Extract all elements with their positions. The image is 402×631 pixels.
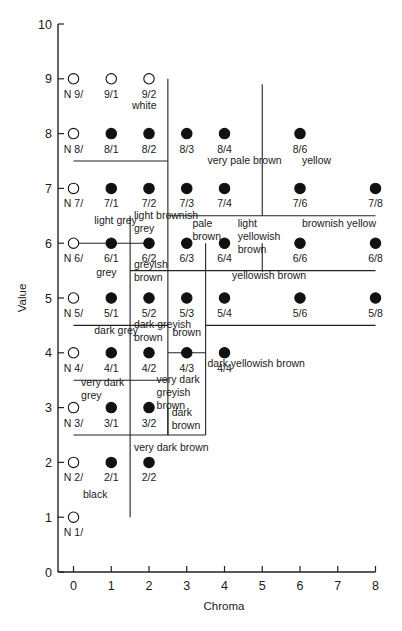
point-label: 6/3 (179, 252, 194, 264)
point-label: 8/6 (293, 143, 308, 155)
data-point: 7/4 (217, 183, 232, 209)
filled-dot-icon (370, 183, 380, 193)
data-point: 5/6 (293, 293, 308, 319)
filled-dot-icon (370, 238, 380, 248)
open-circle-icon (68, 512, 78, 522)
filled-dot-icon (144, 348, 154, 358)
data-point: 4/1 (104, 348, 119, 374)
point-label: 6/8 (368, 252, 383, 264)
data-point: 8/4 (217, 128, 232, 154)
data-point: N 8/ (64, 128, 83, 154)
filled-dot-icon (106, 128, 116, 138)
x-tick-label: 3 (183, 579, 190, 593)
data-point: 9/1 (104, 74, 119, 100)
data-point: 7/1 (104, 183, 119, 209)
region-label: yellow (302, 154, 332, 166)
data-point: 8/6 (293, 128, 308, 154)
data-point: 8/1 (104, 128, 119, 154)
point-label: N 8/ (64, 143, 83, 155)
open-circle-icon (68, 128, 78, 138)
y-tick-label: 4 (45, 346, 52, 360)
point-label: 8/2 (142, 143, 157, 155)
point-label: 5/2 (142, 307, 157, 319)
y-tick-label: 2 (45, 456, 52, 470)
data-point: 6/6 (293, 238, 308, 264)
x-axis-title: Chroma (204, 600, 246, 612)
filled-dot-icon (219, 238, 229, 248)
filled-dot-icon (144, 402, 154, 412)
x-tick-label: 0 (70, 579, 77, 593)
point-label: 5/3 (179, 307, 194, 319)
filled-dot-icon (182, 128, 192, 138)
x-tick-label: 5 (259, 579, 266, 593)
region-label: lightyellowishbrown (238, 217, 281, 255)
x-tick-label: 1 (108, 579, 115, 593)
filled-dot-icon (219, 348, 229, 358)
filled-dot-icon (106, 238, 116, 248)
open-circle-icon (68, 74, 78, 84)
data-point: 8/2 (142, 128, 157, 154)
point-label: 4/1 (104, 362, 119, 374)
open-circle-icon (144, 74, 154, 84)
point-label: 9/2 (142, 88, 157, 100)
point-label: 3/1 (104, 417, 119, 429)
point-label: 8/1 (104, 143, 119, 155)
filled-dot-icon (219, 183, 229, 193)
point-label: 7/3 (179, 197, 194, 209)
filled-dot-icon (182, 348, 192, 358)
data-point: N 7/ (64, 183, 83, 209)
x-tick-label: 7 (334, 579, 341, 593)
point-label: 6/4 (217, 252, 232, 264)
filled-dot-icon (144, 238, 154, 248)
data-points: N 9/9/19/2N 8/8/18/28/38/48/6N 7/7/17/27… (64, 74, 383, 539)
x-tick-label: 8 (372, 579, 379, 593)
filled-dot-icon (106, 402, 116, 412)
region-label: light brownishgrey (134, 209, 198, 234)
data-point: 4/3 (179, 348, 194, 374)
point-label: N 2/ (64, 471, 83, 483)
point-label: 5/4 (217, 307, 232, 319)
data-point: 3/2 (142, 402, 157, 428)
filled-dot-icon (370, 293, 380, 303)
region-label: grey (96, 266, 117, 278)
filled-dot-icon (182, 238, 192, 248)
region-label: black (83, 488, 108, 500)
region-label: light grey (94, 214, 137, 226)
point-label: 5/8 (368, 307, 383, 319)
data-point: 7/6 (293, 183, 308, 209)
point-label: 8/4 (217, 143, 232, 155)
y-tick-label: 6 (45, 237, 52, 251)
point-label: 5/6 (293, 307, 308, 319)
point-label: 4/4 (217, 362, 232, 374)
data-point: 2/1 (104, 457, 119, 483)
y-tick-label: 7 (45, 182, 52, 196)
point-label: 7/8 (368, 197, 383, 209)
data-point: 6/2 (142, 238, 157, 264)
point-label: N 7/ (64, 197, 83, 209)
point-label: N 3/ (64, 417, 83, 429)
filled-dot-icon (144, 128, 154, 138)
data-point: 3/1 (104, 402, 119, 428)
region-label: yellowish brown (232, 269, 306, 281)
region-label: very pale brown (208, 154, 282, 166)
axes: 012345678910012345678 (38, 18, 379, 594)
point-label: N 4/ (64, 362, 83, 374)
filled-dot-icon (106, 348, 116, 358)
point-label: N 9/ (64, 88, 83, 100)
data-point: 9/2 (142, 74, 157, 100)
point-label: N 5/ (64, 307, 83, 319)
filled-dot-icon (144, 457, 154, 467)
filled-dot-icon (295, 183, 305, 193)
data-point: 6/8 (368, 238, 383, 264)
data-point: 7/2 (142, 183, 157, 209)
filled-dot-icon (295, 293, 305, 303)
region-label: very dark brown (134, 441, 209, 453)
region-label: white (131, 99, 157, 111)
data-point: N 6/ (64, 238, 83, 264)
data-point: 5/4 (217, 293, 232, 319)
point-label: 9/1 (104, 88, 119, 100)
y-tick-label: 9 (45, 72, 52, 86)
point-label: 6/6 (293, 252, 308, 264)
data-point: 5/1 (104, 293, 119, 319)
filled-dot-icon (219, 293, 229, 303)
